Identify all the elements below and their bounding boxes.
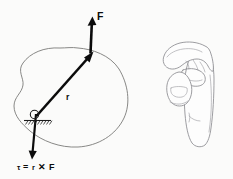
- torque-equation-equals: =: [23, 162, 29, 172]
- torque-equation-r: r: [32, 163, 35, 172]
- torque-equation-f: F: [49, 162, 55, 172]
- torque-equation-cross: ✕: [38, 162, 46, 172]
- torque-right-hand-rule-figure: F r τ = r ✕ F: [0, 0, 233, 179]
- force-label: F: [97, 10, 104, 22]
- force-vector-shaft: [91, 24, 92, 54]
